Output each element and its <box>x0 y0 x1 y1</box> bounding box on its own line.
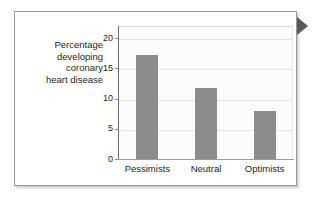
gridline <box>118 39 292 40</box>
category-label-pessimists: Pessimists <box>118 163 177 174</box>
category-axis-line <box>118 159 294 160</box>
y-tick-label: 5 <box>91 124 113 133</box>
bar-neutral <box>195 88 217 159</box>
y-axis-caption: Percentage developing coronary heart dis… <box>27 39 103 85</box>
value-axis-line <box>118 26 119 160</box>
figure-frame: Percentage developing coronary heart dis… <box>14 11 297 186</box>
y-tick-label: 0 <box>91 155 113 164</box>
y-tick-label: 20 <box>91 34 113 43</box>
y-tick-label: 10 <box>91 94 113 103</box>
y-tick-label: 15 <box>91 64 113 73</box>
bar-pessimists <box>136 55 158 159</box>
category-label-neutral: Neutral <box>177 163 236 174</box>
play-triangle-icon <box>297 17 308 35</box>
y-tick-mark <box>115 129 118 130</box>
y-tick-mark <box>115 99 118 100</box>
y-tick-mark <box>115 68 118 69</box>
category-label-optimists: Optimists <box>235 163 294 174</box>
bar-optimists <box>254 111 276 159</box>
y-tick-mark <box>115 38 118 39</box>
y-tick-mark <box>115 159 118 160</box>
